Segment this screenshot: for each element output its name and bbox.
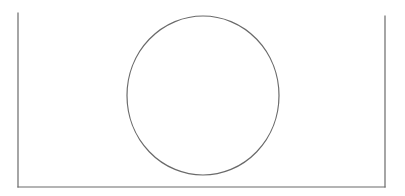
diagram-drawing [0,0,405,196]
diagram-canvas [0,0,405,196]
circle-shape [127,16,279,175]
